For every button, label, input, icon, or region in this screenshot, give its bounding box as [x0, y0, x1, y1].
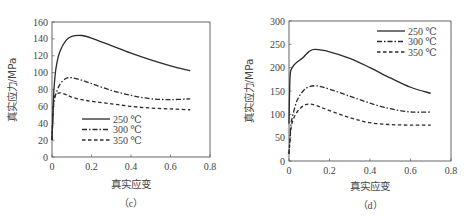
- y-tick-label: 80: [38, 84, 48, 95]
- x-tick-label: 0: [287, 165, 292, 176]
- legend-label: 250 ℃: [408, 26, 437, 37]
- x-axis-label: 真实应变: [350, 180, 391, 192]
- y-tick-label: 0: [280, 156, 285, 167]
- x-tick-label: 0.2: [323, 165, 336, 176]
- y-tick-label: 60: [38, 101, 48, 112]
- y-tick-label: 50: [275, 132, 285, 143]
- x-tick-label: 0.6: [164, 161, 177, 172]
- y-tick-label: 120: [33, 50, 48, 61]
- legend-label: 350 ℃: [113, 135, 142, 146]
- figure-caption: （c）: [119, 198, 143, 209]
- y-tick-label: 150: [270, 86, 285, 97]
- x-tick-label: 0.4: [364, 165, 377, 176]
- y-tick-label: 200: [270, 62, 285, 73]
- legend-label: 300 ℃: [113, 124, 142, 135]
- y-tick-label: 160: [33, 17, 48, 28]
- y-tick-label: 300: [270, 16, 285, 27]
- y-tick-label: 140: [33, 33, 48, 44]
- chart-c: 02040608010012014016000.20.40.60.8真实应力/M…: [6, 17, 216, 210]
- y-tick-label: 100: [270, 109, 285, 120]
- figure-caption: （d）: [358, 200, 383, 211]
- y-tick-label: 40: [38, 118, 48, 129]
- figure: 02040608010012014016000.20.40.60.8真实应力/M…: [0, 0, 469, 220]
- y-tick-label: 250: [270, 39, 285, 50]
- x-tick-label: 0.8: [204, 161, 217, 172]
- x-tick-label: 0.6: [404, 165, 417, 176]
- x-tick-label: 0.2: [85, 161, 98, 172]
- y-tick-label: 20: [38, 135, 48, 146]
- y-axis-label: 真实应力/MPa: [6, 58, 18, 123]
- x-tick-label: 0.4: [125, 161, 138, 172]
- y-tick-label: 100: [33, 67, 48, 78]
- chart-d: 05010015020025030000.20.40.60.8真实应力/MPa真…: [243, 16, 457, 212]
- y-axis-label: 真实应力/MPa: [243, 59, 255, 124]
- legend-label: 250 ℃: [113, 114, 142, 125]
- x-axis-label: 真实应变: [111, 178, 152, 190]
- x-tick-label: 0.8: [445, 165, 458, 176]
- series-line-300: [289, 86, 431, 154]
- x-tick-label: 0: [50, 161, 55, 172]
- legend-label: 300 ℃: [408, 36, 437, 47]
- legend-label: 350 ℃: [408, 47, 437, 58]
- series-line-350: [289, 104, 431, 154]
- y-tick-label: 0: [43, 152, 48, 163]
